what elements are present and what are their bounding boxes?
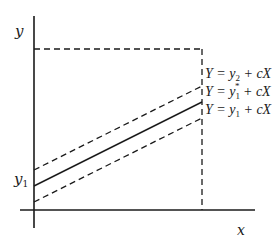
x-axis-label: x <box>237 222 245 238</box>
y-axis-label: y <box>14 22 24 40</box>
middle-line-equation: Y = y1* + cX <box>205 81 271 101</box>
lower-line-equation: Y = y1 + cX <box>205 102 272 119</box>
middle-line-solid <box>34 102 202 186</box>
lower-line-dashed <box>34 118 202 202</box>
y1-intercept-label: y1 <box>13 170 28 189</box>
diagram: y x y1 Y = y2 + cX Y = y1* + cX Y = y1 +… <box>0 0 279 243</box>
upper-line-dashed <box>34 86 202 170</box>
